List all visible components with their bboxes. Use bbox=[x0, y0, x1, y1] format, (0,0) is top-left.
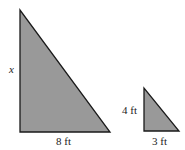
small-right-triangle bbox=[144, 88, 179, 131]
diagram-canvas bbox=[0, 0, 185, 150]
large-triangle-base-label: 8 ft bbox=[56, 135, 71, 147]
small-triangle-base-label: 3 ft bbox=[152, 135, 167, 147]
small-triangle-height-label: 4 ft bbox=[122, 104, 137, 116]
large-right-triangle bbox=[20, 10, 110, 132]
large-triangle-height-label: x bbox=[9, 63, 14, 75]
